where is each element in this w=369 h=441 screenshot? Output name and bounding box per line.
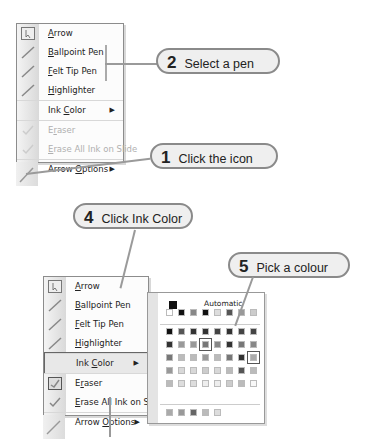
palette-separator [160,324,260,325]
menu-item-ink-color[interactable]: Ink Color▶ [17,100,123,120]
submenu-arrow-icon: ▶ [134,354,139,373]
step-text: Click Ink Color [101,212,182,226]
ballpoint-pen-icon [21,46,35,59]
menu-item-eraser[interactable]: Eraser [17,120,123,140]
erase-pointer-line [109,397,111,437]
callout-2-connector [105,63,157,65]
color-swatch[interactable] [166,341,173,348]
recent-color-swatch[interactable] [178,409,185,416]
color-swatch[interactable] [238,341,245,348]
automatic-color-label[interactable]: Automatic [204,299,242,308]
color-swatch[interactable] [166,354,173,361]
color-swatch[interactable] [202,309,209,316]
palette-gutter [148,293,158,423]
menu-item-arrow[interactable]: Arrow [17,24,123,43]
menu-item-arrow[interactable]: Arrow [44,277,148,296]
color-swatch[interactable] [226,309,233,316]
arrow-cursor-icon [21,27,35,40]
color-swatch[interactable] [190,328,197,335]
color-swatch[interactable] [238,380,245,387]
menu-item-label: Arrow Options [75,417,135,427]
color-swatch[interactable] [214,309,221,316]
step-number: 4 [84,208,93,227]
color-swatch[interactable] [202,380,209,387]
color-swatch[interactable] [178,380,185,387]
color-swatch[interactable] [190,341,197,348]
menu-item-ballpoint-pen[interactable]: Ballpoint Pen [17,43,123,62]
automatic-color-swatch[interactable] [169,301,177,309]
recent-color-swatch[interactable] [190,409,197,416]
ink-color-palette: Automatic [147,292,265,424]
recent-color-swatch[interactable] [214,409,221,416]
color-swatch[interactable] [226,328,233,335]
color-swatch[interactable] [202,354,209,361]
color-swatch[interactable] [202,367,209,374]
color-swatch[interactable] [238,367,245,374]
highlighter-icon [21,84,35,97]
color-swatch[interactable] [250,341,257,348]
erase-all-icon [48,396,62,409]
step-text: Click the icon [178,152,252,166]
color-swatch[interactable] [226,354,233,361]
color-swatch[interactable] [166,380,173,387]
color-swatch[interactable] [190,380,197,387]
menu-item-highlighter[interactable]: Highlighter [17,81,123,100]
color-swatch[interactable] [202,328,209,335]
color-swatch[interactable] [214,328,221,335]
erase-all-icon [21,143,35,156]
color-swatch[interactable] [166,328,173,335]
menu-item-label: Felt Tip Pen [75,319,124,329]
recent-color-swatch[interactable] [166,409,173,416]
menu-item-erase-all-ink-on-slide[interactable]: Erase All Ink on Slide [44,393,148,412]
color-swatch[interactable] [226,367,233,374]
color-swatch[interactable] [190,354,197,361]
step-text: Select a pen [184,57,254,71]
palette-separator [160,404,260,405]
color-swatch[interactable] [214,341,221,348]
color-swatch[interactable] [250,328,257,335]
color-swatch[interactable] [190,367,197,374]
color-swatch[interactable] [178,309,185,316]
eraser-icon [21,124,35,137]
color-swatch[interactable] [178,328,185,335]
color-swatch[interactable] [214,367,221,374]
menu-item-label: Eraser [75,378,102,388]
menu-item-eraser[interactable]: Eraser [44,373,148,393]
color-swatch[interactable] [178,354,185,361]
color-swatch[interactable] [250,380,257,387]
callout-step-2: 2Select a pen [156,48,280,74]
menu-item-label: Ink Color [76,358,114,368]
menu-item-highlighter[interactable]: Highlighter [44,334,148,353]
color-swatch[interactable] [190,309,197,316]
menu-item-label: Ink Color [48,105,86,115]
menu-item-ink-color[interactable]: Ink Color▶ [45,353,147,373]
pen-icon [43,415,65,437]
color-swatch[interactable] [214,354,221,361]
selected-swatch-highlight [199,338,212,351]
pen-tool-button[interactable] [43,415,65,439]
menu-item-label: Ballpoint Pen [75,300,131,310]
color-swatch[interactable] [178,367,185,374]
menu-item-felt-tip-pen[interactable]: Felt Tip Pen [44,315,148,334]
arrow-cursor-icon [48,280,62,293]
eraser-icon [48,377,62,390]
submenu-arrow-icon: ▶ [110,101,115,120]
recent-color-swatch[interactable] [202,409,209,416]
color-swatch[interactable] [166,309,173,316]
color-swatch[interactable] [238,328,245,335]
color-swatch[interactable] [178,341,185,348]
color-swatch[interactable] [226,341,233,348]
color-swatch[interactable] [166,367,173,374]
menu-item-erase-all-ink-on-slide[interactable]: Erase All Ink on Slide [17,140,123,159]
color-swatch[interactable] [226,380,233,387]
callout-step-5: 5Pick a colour [228,252,350,278]
color-swatch[interactable] [238,354,245,361]
step-text: Pick a colour [256,261,328,275]
menu-item-label: Arrow [75,281,100,291]
step-number: 5 [239,257,248,276]
color-swatch[interactable] [250,367,257,374]
menu-item-ballpoint-pen[interactable]: Ballpoint Pen [44,296,148,315]
color-swatch[interactable] [214,380,221,387]
step-number: 2 [167,53,176,72]
color-swatch[interactable] [250,309,257,316]
